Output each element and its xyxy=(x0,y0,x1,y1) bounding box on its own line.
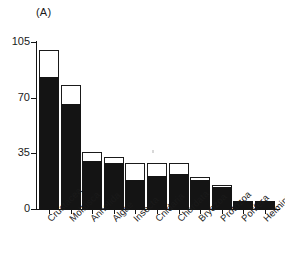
bar-filled-crustacea xyxy=(39,77,59,209)
y-tick-label-70: 70 xyxy=(6,91,36,103)
bar-chart-plot: 03570105 CrustaceaMolluscaAnnelidaAlgaeI… xyxy=(0,0,285,270)
y-axis-line xyxy=(36,41,37,210)
y-tick-label-35: 35 xyxy=(6,146,36,158)
y-tick-label-0: 0 xyxy=(6,202,36,214)
y-tick-label-105: 105 xyxy=(6,35,36,47)
scan-artifact-speck xyxy=(152,150,154,153)
figure-panel-a: (A) 03570105 CrustaceaMolluscaAnnelidaAl… xyxy=(0,0,285,270)
